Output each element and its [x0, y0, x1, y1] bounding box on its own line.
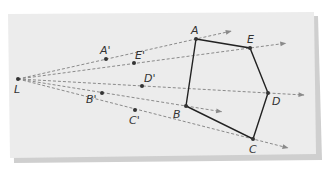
- point-A': [104, 57, 108, 61]
- point-B: [184, 104, 188, 108]
- label-A': A': [99, 44, 111, 57]
- label-C: C: [249, 143, 257, 156]
- point-C': [133, 108, 137, 112]
- point-A: [194, 37, 198, 41]
- dilation-diagram: LA'E'D'B'C'AEDCB: [0, 0, 331, 172]
- label-D: D: [272, 95, 280, 108]
- label-L: L: [14, 83, 20, 96]
- point-L: [16, 77, 20, 81]
- point-B': [100, 91, 104, 95]
- point-E: [248, 46, 252, 50]
- label-B: B: [173, 108, 181, 121]
- point-C: [251, 137, 255, 141]
- label-A: A: [190, 24, 199, 37]
- label-E: E: [247, 33, 254, 46]
- label-D': D': [144, 72, 156, 85]
- label-C': C': [129, 114, 140, 127]
- label-E': E': [135, 49, 145, 62]
- label-B': B': [86, 93, 97, 106]
- point-D: [266, 91, 270, 95]
